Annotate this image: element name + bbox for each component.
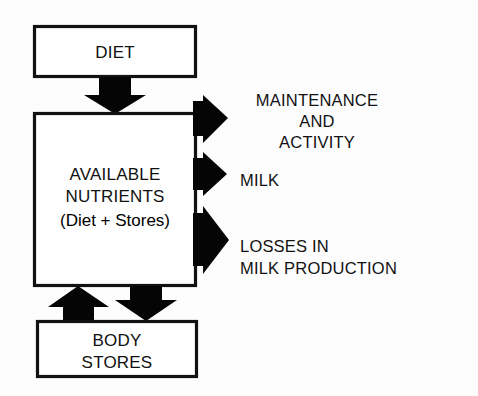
milk-label-line-1: MILK <box>240 171 279 189</box>
diet-box-label: DIET <box>95 43 135 62</box>
arrow-diet-to-available-nutrients <box>84 77 146 114</box>
right-arrow-icon <box>193 206 229 274</box>
maintenance-and-activity-line-3: ACTIVITY <box>279 133 355 151</box>
right-arrow-icon <box>193 152 227 196</box>
diet-box: DIET <box>35 27 196 77</box>
body-stores-line-1: BODY <box>93 331 142 350</box>
available-nutrients-line-2: NUTRIENTS <box>65 187 164 206</box>
losses-in-milk-production-line-2: MILK PRODUCTION <box>240 259 397 277</box>
maintenance-and-activity-line-2: AND <box>299 112 334 130</box>
right-arrow-icon <box>193 95 228 143</box>
diagram-canvas: DIET AVAILABLE NUTRIENTS (Diet + Stores) <box>0 0 478 396</box>
down-arrow-icon <box>84 77 146 114</box>
losses-in-milk-production-label: LOSSES IN MILK PRODUCTION <box>240 237 397 277</box>
available-nutrients-box: AVAILABLE NUTRIENTS (Diet + Stores) <box>35 114 196 286</box>
arrow-body-stores-to-available-nutrients <box>48 286 109 320</box>
down-arrow-icon <box>115 286 177 321</box>
maintenance-and-activity-label: MAINTENANCE AND ACTIVITY <box>256 91 378 151</box>
nutrient-flow-diagram: DIET AVAILABLE NUTRIENTS (Diet + Stores) <box>0 0 478 396</box>
losses-in-milk-production-line-1: LOSSES IN <box>240 237 329 255</box>
arrow-to-losses-in-milk-production <box>193 206 229 274</box>
up-arrow-icon <box>48 286 109 320</box>
maintenance-and-activity-line-1: MAINTENANCE <box>256 91 378 109</box>
milk-label: MILK <box>240 171 279 189</box>
body-stores-line-2: STORES <box>82 353 153 372</box>
available-nutrients-line-1: AVAILABLE <box>70 165 161 184</box>
available-nutrients-line-3: (Diet + Stores) <box>60 211 170 230</box>
arrow-to-maintenance-and-activity <box>193 95 228 143</box>
arrow-available-nutrients-to-body-stores <box>115 286 177 321</box>
arrow-to-milk <box>193 152 227 196</box>
body-stores-box: BODY STORES <box>38 322 197 377</box>
